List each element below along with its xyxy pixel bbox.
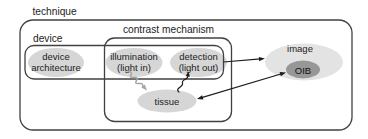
tissue-oib-double-arrow: [197, 72, 286, 99]
detection-label-line2: (light out): [179, 62, 219, 73]
device-label: device: [33, 33, 63, 44]
technique-label: technique: [33, 6, 78, 17]
oib-label: OIB: [295, 65, 311, 76]
illumination-label-line2: (light in): [117, 62, 151, 73]
device-to-image-arrow: [224, 57, 266, 62]
detection-label-line1: detection: [179, 51, 218, 62]
device-architecture-label-line1: device: [42, 51, 69, 62]
image-label: image: [287, 43, 313, 54]
diagram-canvas: technique contrast mechanism device devi…: [0, 0, 368, 139]
device-architecture-label-line2: architecture: [31, 62, 81, 73]
technique-diagram: technique contrast mechanism device devi…: [0, 0, 368, 139]
tissue-label: tissue: [155, 96, 180, 107]
contrast-mechanism-label: contrast mechanism: [123, 24, 214, 35]
illumination-label-line1: illumination: [110, 51, 158, 62]
